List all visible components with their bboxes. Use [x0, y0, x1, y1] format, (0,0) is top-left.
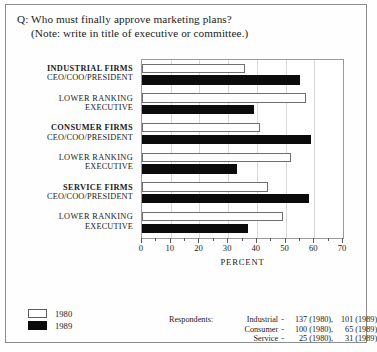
x-tick-label: 0 [139, 243, 143, 253]
x-tick-label: 40 [252, 243, 261, 253]
category-label-6: LOWER RANKINGEXECUTIVE [59, 212, 133, 231]
bar-group [142, 208, 343, 238]
bar-group [142, 90, 343, 120]
category-label-line-2: EXECUTIVE [59, 222, 133, 232]
legend-item-1980: 1980 [28, 308, 118, 319]
respondents-count-1980: 137 (1980), [287, 315, 333, 325]
x-tick-minor [184, 238, 185, 241]
respondents-rows: Industrial-137 (1980),101 (1989)Consumer… [222, 315, 377, 344]
bar-group [142, 149, 343, 179]
chart-legend: 19801989 [28, 308, 118, 332]
x-tick-minor [213, 238, 214, 241]
x-axis-tick-labels: 010203040506070 [141, 243, 344, 255]
x-tick-minor [155, 238, 156, 241]
chart-frame: Q: Who must finally approve marketing pl… [5, 4, 367, 343]
bar-1980-1 [142, 64, 245, 74]
respondents-sector: Consumer [222, 325, 278, 335]
x-tick-minor [242, 238, 243, 241]
category-label-line-1: LOWER RANKING [59, 212, 133, 222]
plot-area [141, 59, 344, 239]
category-label-line-1: CONSUMER FIRMS [47, 123, 133, 133]
respondents-row: Industrial-137 (1980),101 (1989) [222, 315, 377, 325]
category-label-line-2: EXECUTIVE [59, 162, 133, 172]
respondents-note: Respondents: Industrial-137 (1980),101 (… [169, 315, 377, 344]
category-label-5: SERVICE FIRMSCEO/COO/PRESIDENT [47, 183, 133, 202]
x-tick-minor [299, 238, 300, 241]
x-tick-minor [328, 238, 329, 241]
legend-label: 1980 [55, 309, 72, 319]
x-tick-label: 60 [309, 243, 318, 253]
x-tick-label: 20 [194, 243, 203, 253]
respondents-count-1980: 100 (1980), [287, 325, 333, 335]
category-label-line-1: LOWER RANKING [59, 153, 133, 163]
category-labels: INDUSTRIAL FIRMSCEO/COO/PRESIDENTLOWER R… [6, 59, 137, 237]
respondents-count-1980: 25 (1980), [287, 334, 333, 344]
x-tick-label: 30 [223, 243, 232, 253]
respondents-sector: Industrial [222, 315, 278, 325]
category-label-line-2: CEO/COO/PRESIDENT [47, 133, 133, 143]
bar-1980-2 [142, 93, 306, 103]
bar-group [142, 60, 343, 90]
x-tick-label: 70 [338, 243, 347, 253]
bar-1980-5 [142, 182, 268, 192]
bar-1989-1 [142, 75, 300, 85]
x-tick-label: 50 [280, 243, 289, 253]
legend-swatch-1980 [28, 309, 47, 318]
bar-chart: INDUSTRIAL FIRMSCEO/COO/PRESIDENTLOWER R… [6, 5, 368, 344]
legend-swatch-1989 [28, 321, 47, 330]
legend-label: 1989 [55, 321, 72, 331]
respondents-dash: - [278, 325, 287, 335]
category-label-line-1: SERVICE FIRMS [47, 183, 133, 193]
category-label-line-1: LOWER RANKING [59, 94, 133, 104]
respondents-label: Respondents: [169, 315, 213, 324]
category-label-line-1: INDUSTRIAL FIRMS [47, 64, 133, 74]
x-tick-minor [270, 238, 271, 241]
bar-1989-4 [142, 164, 237, 174]
bar-1989-5 [142, 194, 309, 204]
respondents-row: Service-25 (1980),31 (1989) [222, 334, 377, 344]
respondents-count-1989: 31 (1989) [333, 334, 377, 344]
bar-1980-6 [142, 212, 283, 222]
respondents-count-1989: 65 (1989) [333, 325, 377, 335]
category-label-line-2: CEO/COO/PRESIDENT [47, 73, 133, 83]
bar-1980-4 [142, 153, 291, 163]
category-label-line-2: CEO/COO/PRESIDENT [47, 192, 133, 202]
legend-item-1989: 1989 [28, 320, 118, 331]
bar-group [142, 119, 343, 149]
respondents-dash: - [278, 334, 287, 344]
bar-1989-2 [142, 105, 254, 115]
category-label-4: LOWER RANKINGEXECUTIVE [59, 153, 133, 172]
category-label-3: CONSUMER FIRMSCEO/COO/PRESIDENT [47, 123, 133, 142]
bar-1989-6 [142, 224, 248, 234]
respondents-sector: Service [222, 334, 278, 344]
x-tick-label: 10 [165, 243, 174, 253]
respondents-dash: - [278, 315, 287, 325]
category-label-line-2: EXECUTIVE [59, 103, 133, 113]
bar-group [142, 179, 343, 209]
bar-1980-3 [142, 123, 260, 133]
x-axis-title: PERCENT [141, 257, 344, 267]
respondents-row: Consumer-100 (1980),65 (1989) [222, 325, 377, 335]
category-label-1: INDUSTRIAL FIRMSCEO/COO/PRESIDENT [47, 64, 133, 83]
respondents-count-1989: 101 (1989) [333, 315, 377, 325]
bar-1989-3 [142, 135, 311, 145]
category-label-2: LOWER RANKINGEXECUTIVE [59, 94, 133, 113]
